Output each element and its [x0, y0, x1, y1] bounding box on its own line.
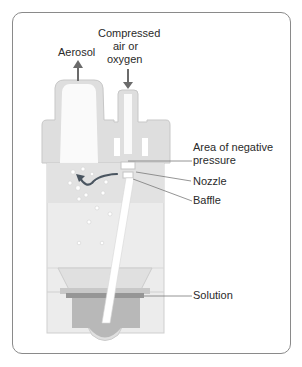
gas-inlet-channel: [124, 94, 132, 154]
droplet: [87, 220, 91, 224]
label-solution: Solution: [193, 289, 233, 301]
droplet: [90, 172, 94, 176]
nozzle: [121, 162, 135, 169]
label-aerosol: Aerosol: [58, 46, 95, 58]
label-air-or: air or: [113, 40, 138, 52]
droplet: [77, 197, 81, 201]
aerosol-outlet: [60, 84, 98, 163]
baffle: [123, 172, 133, 178]
solution-band: [66, 293, 144, 298]
label-oxygen: oxygen: [107, 53, 142, 65]
arrow-up-icon: [73, 60, 83, 68]
droplet: [77, 241, 81, 245]
droplet: [68, 181, 72, 185]
label-pressure: pressure: [193, 154, 236, 166]
droplet: [101, 191, 105, 195]
label-negative-pressure: Area of negative: [193, 141, 273, 153]
droplet: [104, 180, 108, 184]
arrow-down-icon: [123, 82, 133, 89]
inlet-slot: [114, 138, 120, 156]
droplet: [84, 193, 88, 197]
label-baffle: Baffle: [193, 194, 221, 206]
label-nozzle: Nozzle: [193, 175, 227, 187]
droplet: [95, 206, 99, 210]
droplet: [108, 212, 112, 216]
inlet-slot: [142, 138, 148, 156]
label-compressed: Compressed: [98, 27, 160, 39]
droplet: [81, 167, 85, 171]
droplet: [71, 170, 75, 174]
droplet: [76, 186, 81, 191]
droplet: [100, 241, 104, 245]
nebulizer-diagram: Aerosol Compressed air or oxygen Area of…: [0, 0, 302, 367]
